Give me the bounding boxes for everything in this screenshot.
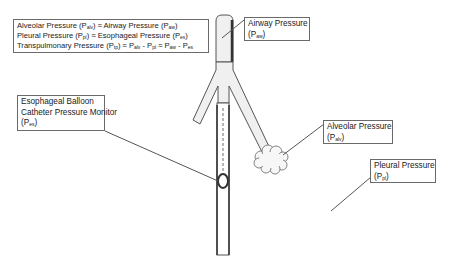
esophageal-balloon <box>218 174 228 188</box>
pleural-leader-line <box>331 177 371 211</box>
pleural-esophageal-equation: Pleural Pressure (Ppl) ≈ Esophageal Pres… <box>17 31 205 41</box>
esophageal-balloon-label: Esophageal Balloon Catheter Pressure Mon… <box>17 95 105 131</box>
pleural-pressure-label: Pleural Pressure (Ppl) <box>370 159 436 183</box>
esophageal-leader-line <box>105 131 218 181</box>
airway-pressure-label: Airway Pressure (Paw) <box>244 17 310 41</box>
trachea-tube <box>216 15 233 62</box>
alveolus-cloud-icon <box>254 145 288 174</box>
alveolar-pressure-label: Alveolar Pressure (Palv) <box>323 120 393 144</box>
alveolar-leader-line <box>283 124 324 155</box>
pressure-relationships-box: Alveolar Pressure (Palv) ≈ Airway Pressu… <box>13 19 209 53</box>
bronchi-bifurcation <box>193 62 272 158</box>
alveolar-airway-equation: Alveolar Pressure (Palv) ≈ Airway Pressu… <box>17 21 205 31</box>
transpulmonary-equation: Transpulmonary Pressure (Ptp) ≈ Palv - P… <box>17 41 205 51</box>
